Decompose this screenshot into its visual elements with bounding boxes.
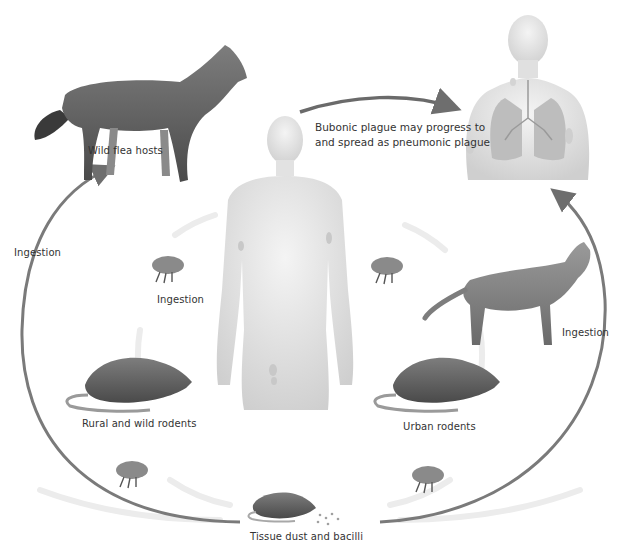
label-bubonic-line1: Bubonic plague may progress to	[315, 120, 490, 135]
label-bubonic-progression: Bubonic plague may progress to and sprea…	[315, 120, 490, 150]
label-rural-rodents: Rural and wild rodents	[82, 418, 196, 429]
label-ingestion-flea: Ingestion	[157, 294, 204, 305]
label-wild-flea-hosts: Wild flea hosts	[88, 145, 163, 156]
flea-icon	[116, 461, 148, 488]
label-urban-rodents: Urban rodents	[403, 421, 476, 432]
rat-icon	[249, 493, 340, 526]
plague-cycle-diagram	[0, 0, 619, 552]
label-tissue-dust: Tissue dust and bacilli	[250, 531, 363, 542]
human-lungs-icon	[466, 15, 589, 180]
label-ingestion-left: Ingestion	[14, 247, 61, 258]
label-ingestion-right: Ingestion	[562, 327, 609, 338]
flea-icon	[371, 257, 403, 284]
rat-icon	[67, 358, 192, 411]
label-bubonic-line2: and spread as pneumonic plague	[315, 135, 490, 150]
wolf-icon	[34, 45, 247, 182]
progression-arrow	[300, 97, 455, 112]
flea-icon	[152, 256, 184, 283]
human-body-icon	[217, 116, 353, 410]
